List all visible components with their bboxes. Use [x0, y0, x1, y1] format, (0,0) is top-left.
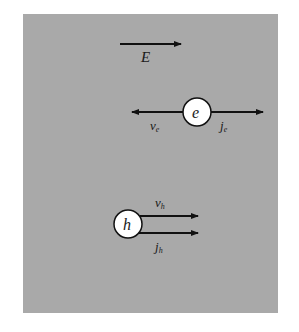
hole-velocity-label: vh	[155, 195, 165, 211]
electron-current-label: je	[218, 118, 228, 134]
hole-current-label: jh	[153, 239, 163, 255]
drift-diagram: E e ve je h vh jh	[0, 0, 299, 332]
electron-group: e ve je	[132, 98, 263, 134]
hole-label: h	[123, 216, 131, 233]
field-label: E	[140, 49, 150, 65]
electron-label: e	[192, 104, 199, 121]
hole-group: h vh jh	[114, 195, 198, 255]
field-arrow: E	[120, 44, 181, 65]
electron-velocity-label: ve	[150, 118, 160, 134]
